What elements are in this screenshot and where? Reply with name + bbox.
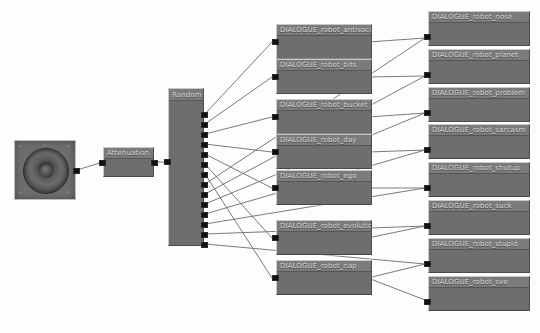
attenuation-node[interactable]: Attenuation	[103, 147, 154, 177]
dialogue-node[interactable]: DIALOGUE_robot_day	[276, 134, 372, 169]
dialogue-input-port[interactable]	[272, 39, 279, 45]
dialogue-node-title: DIALOGUE_robot_planet	[429, 50, 529, 61]
random-output-port[interactable]	[201, 242, 208, 248]
random-output-port[interactable]	[201, 132, 208, 138]
random-output-port[interactable]	[201, 122, 208, 128]
attenuation-output-port[interactable]	[151, 160, 158, 166]
dialogue-node[interactable]: DIALOGUE_robot_ego	[276, 170, 372, 205]
dialogue-node-title: DIALOGUE_robot_nap	[277, 261, 371, 272]
random-output-port[interactable]	[201, 152, 208, 158]
dialogue-node-title: DIALOGUE_robot_bucket	[277, 100, 371, 111]
dialogue-input-port[interactable]	[424, 147, 431, 153]
dialogue-node[interactable]: DIALOGUE_robot_nose	[428, 11, 530, 46]
screw-icon	[19, 191, 23, 195]
dialogue-node-title: DIALOGUE_robot_sarcasm	[429, 125, 529, 136]
dialogue-input-port[interactable]	[272, 185, 279, 191]
random-output-port[interactable]	[201, 192, 208, 198]
dialogue-node-title: DIALOGUE_robot_nose	[429, 12, 529, 23]
random-output-port[interactable]	[201, 162, 208, 168]
dialogue-node[interactable]: DIALOGUE_robot_stupid	[428, 238, 530, 273]
dialogue-node[interactable]: DIALOGUE_robot_problem	[428, 87, 530, 122]
random-output-port[interactable]	[201, 232, 208, 238]
dialogue-node-title: DIALOGUE_robot_ego	[277, 171, 371, 182]
random-node[interactable]: Random	[168, 88, 204, 246]
dialogue-node[interactable]: DIALOGUE_robot_planet	[428, 49, 530, 84]
random-output-port[interactable]	[201, 112, 208, 118]
random-output-port[interactable]	[201, 142, 208, 148]
dialogue-node-title: DIALOGUE_robot_suck	[429, 201, 529, 212]
dialogue-input-port[interactable]	[424, 110, 431, 116]
attenuation-input-port[interactable]	[99, 160, 106, 166]
dialogue-input-port[interactable]	[424, 72, 431, 78]
dialogue-node[interactable]: DIALOGUE_robot_shutup	[428, 162, 530, 197]
dialogue-node-title: DIALOGUE_robot_sve	[429, 277, 529, 288]
speaker-source-node[interactable]	[14, 140, 76, 200]
dialogue-input-port[interactable]	[272, 235, 279, 241]
node-graph-canvas[interactable]: Attenuation Random DIALOGUE_robot_antiso…	[0, 0, 540, 333]
random-output-port[interactable]	[201, 202, 208, 208]
random-output-port[interactable]	[201, 222, 208, 228]
dialogue-input-port[interactable]	[272, 74, 279, 80]
dialogue-node[interactable]: DIALOGUE_robot_evolution	[276, 220, 372, 255]
dialogue-node[interactable]: DIALOGUE_robot_suck	[428, 200, 530, 235]
dialogue-input-port[interactable]	[272, 275, 279, 281]
dialogue-node-title: DIALOGUE_robot_bits	[277, 60, 371, 71]
dialogue-input-port[interactable]	[272, 149, 279, 155]
dialogue-input-port[interactable]	[424, 261, 431, 267]
attenuation-node-title: Attenuation	[104, 148, 153, 159]
dialogue-node[interactable]: DIALOGUE_robot_bits	[276, 59, 372, 94]
random-node-title: Random	[169, 89, 203, 101]
dialogue-node-title: DIALOGUE_robot_problem	[429, 88, 529, 99]
dialogue-node-title: DIALOGUE_robot_day	[277, 135, 371, 146]
dialogue-node[interactable]: DIALOGUE_robot_sve	[428, 276, 530, 311]
screw-icon	[67, 191, 71, 195]
random-output-port[interactable]	[201, 172, 208, 178]
screw-icon	[67, 145, 71, 149]
screw-icon	[19, 145, 23, 149]
dialogue-node[interactable]: DIALOGUE_robot_antisocial	[276, 24, 372, 59]
dialogue-node-title: DIALOGUE_robot_stupid	[429, 239, 529, 250]
dialogue-input-port[interactable]	[424, 223, 431, 229]
dialogue-input-port[interactable]	[424, 34, 431, 40]
random-output-port[interactable]	[201, 182, 208, 188]
dialogue-node[interactable]: DIALOGUE_robot_sarcasm	[428, 124, 530, 159]
random-output-port[interactable]	[201, 212, 208, 218]
speaker-dustcap-icon	[40, 165, 53, 178]
speaker-icon	[23, 148, 69, 194]
speaker-output-port[interactable]	[73, 168, 80, 174]
dialogue-node-title: DIALOGUE_robot_evolution	[277, 221, 371, 232]
dialogue-input-port[interactable]	[424, 299, 431, 305]
random-input-port[interactable]	[164, 159, 171, 165]
dialogue-input-port[interactable]	[424, 185, 431, 191]
dialogue-node-title: DIALOGUE_robot_antisocial	[277, 25, 371, 36]
dialogue-node[interactable]: DIALOGUE_robot_nap	[276, 260, 372, 295]
dialogue-node-title: DIALOGUE_robot_shutup	[429, 163, 529, 174]
dialogue-node[interactable]: DIALOGUE_robot_bucket	[276, 99, 372, 134]
dialogue-input-port[interactable]	[272, 114, 279, 120]
